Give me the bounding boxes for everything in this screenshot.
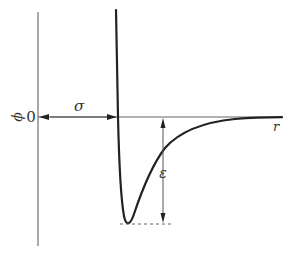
epsilon-arrowhead-top: [161, 118, 166, 128]
sigma-label: σ: [74, 97, 85, 115]
r-label: r: [273, 119, 280, 134]
epsilon-label: ε: [159, 165, 167, 181]
sigma-arrowhead-right: [107, 114, 117, 120]
lj-potential-diagram: ϕ 0 σ ε r: [0, 0, 290, 259]
phi-label: ϕ: [9, 112, 25, 122]
zero-label: 0: [26, 108, 36, 126]
sigma-arrowhead-left: [39, 114, 49, 120]
epsilon-arrowhead-bottom: [161, 213, 166, 223]
